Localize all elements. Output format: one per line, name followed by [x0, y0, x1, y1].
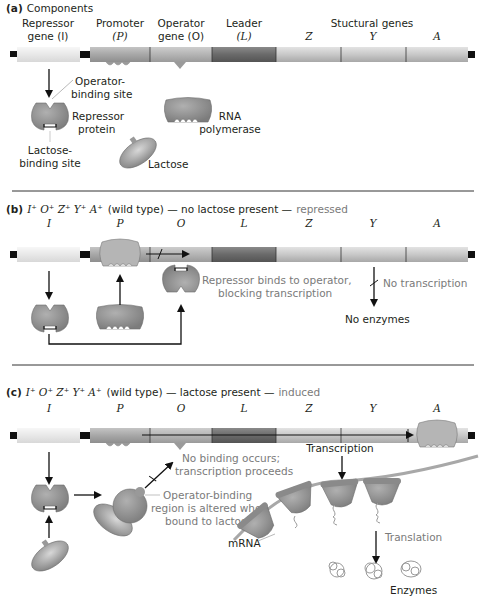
label-promoter-symbol: (P) — [112, 30, 127, 42]
no-transcription-text: No transcription — [383, 277, 467, 289]
enzymes-label: Enzymes — [390, 584, 437, 596]
repressor-protein-icon-c — [32, 485, 69, 512]
repressor-bound-operator-icon — [163, 265, 200, 292]
label-operator-symbol: gene (O) — [158, 30, 204, 42]
no-binding-arrow — [145, 463, 172, 488]
label-operator-binding-site: Operator- — [75, 75, 125, 87]
mrna-label: mRNA — [228, 537, 261, 549]
label-lactose-binding-site-2: binding site — [19, 157, 80, 169]
svg-text:I: I — [46, 217, 52, 229]
label-gene-a: A — [432, 30, 441, 42]
no-binding-text: No binding occurs; — [182, 452, 280, 464]
label-gene-y: Y — [370, 30, 378, 42]
repressor-protein-icon — [32, 103, 69, 130]
repressor-binds-text: Repressor binds to operator, — [202, 274, 352, 286]
dna-bar-c — [10, 420, 475, 450]
svg-text:Z: Z — [304, 217, 313, 229]
svg-text:O: O — [177, 402, 186, 414]
enzymes-icons — [329, 561, 421, 579]
altered-region-text-1: Operator-binding — [163, 489, 252, 501]
svg-text:Z: Z — [304, 402, 313, 414]
svg-text:I: I — [46, 402, 52, 414]
leader-operator-binding — [52, 80, 73, 99]
svg-text:O: O — [177, 217, 186, 229]
rna-polymerase-moving-icon — [417, 420, 458, 447]
svg-text:Y: Y — [370, 217, 378, 229]
svg-text:L: L — [240, 217, 248, 229]
blocking-transcription-text: blocking transcription — [218, 287, 332, 299]
dna-bar-a — [10, 47, 475, 69]
label-leader: Leader — [226, 17, 263, 29]
rna-polymerase-icon-b — [96, 305, 143, 330]
svg-text:P: P — [115, 402, 124, 414]
operator-notch — [174, 62, 186, 69]
panel-a-title: (a)Components — [6, 2, 93, 14]
label-leader-symbol: (L) — [236, 30, 251, 42]
rna-polymerase-icon — [164, 98, 211, 123]
label-operator: Operator — [158, 17, 206, 29]
no-enzymes-text: No enzymes — [345, 313, 410, 325]
lactose-icon-c — [26, 535, 73, 577]
svg-text:A: A — [432, 217, 441, 229]
lac-operon-diagram: (a)Components Repressor gene (I) Promote… — [0, 0, 485, 605]
repressor-protein-icon-b — [32, 305, 69, 332]
panel-b-title: (b)I⁺ O⁺ Z⁺ Y⁺ A⁺(wild type) — no lactos… — [6, 203, 348, 215]
transcription-label: Transcription — [305, 442, 374, 454]
label-rna: RNA — [219, 110, 242, 122]
operator-notch — [174, 443, 186, 450]
panel-c: (c)I⁺ O⁺ Z⁺ Y⁺ A⁺(wild type) — lactose p… — [6, 386, 478, 596]
label-lactose: Lactose — [148, 158, 189, 170]
label-structural-genes: Stuctural genes — [331, 17, 414, 29]
panel-b-gene-letters: I P O L Z Y A — [46, 217, 441, 229]
panel-a-gene-labels: Repressor gene (I) Promoter (P) Operator… — [22, 17, 441, 42]
label-repressor-gene-symbol: gene (I) — [28, 30, 69, 42]
rna-polymerase-bound-icon — [100, 239, 141, 266]
svg-text:P: P — [115, 217, 124, 229]
panel-c-title: (c)I⁺ O⁺ Z⁺ Y⁺ A⁺(wild type) — lactose p… — [6, 386, 320, 398]
translation-label: Translation — [384, 531, 442, 543]
panel-c-gene-letters: I P O L Z Y A — [46, 402, 441, 414]
label-operator-binding-site-2: binding site — [71, 88, 132, 100]
label-gene-z: Z — [304, 30, 313, 42]
label-repressor-protein: Repressor — [72, 110, 125, 122]
dna-bar-b — [10, 239, 475, 266]
label-polymerase: polymerase — [199, 123, 261, 135]
panel-a: (a)Components Repressor gene (I) Promote… — [6, 2, 475, 174]
svg-text:L: L — [240, 402, 248, 414]
promoter-binding-bumps — [106, 443, 130, 446]
svg-text:A: A — [432, 402, 441, 414]
label-lactose-binding-site: Lactose- — [28, 144, 73, 156]
label-repressor-gene: Repressor — [22, 17, 75, 29]
svg-text:Y: Y — [370, 402, 378, 414]
altered-region-text-2: region is altered when — [151, 502, 268, 514]
promoter-binding-bumps — [106, 62, 130, 65]
label-repressor-protein-2: protein — [78, 123, 115, 135]
transcription-proceeds-text: transcription proceeds — [175, 465, 293, 477]
label-promoter: Promoter — [96, 17, 145, 29]
panel-b: (b)I⁺ O⁺ Z⁺ Y⁺ A⁺(wild type) — no lactos… — [6, 203, 475, 344]
